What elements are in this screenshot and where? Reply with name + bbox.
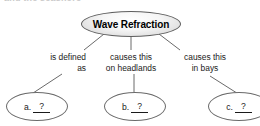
- branch-caption-c: causes this in bays: [173, 52, 237, 73]
- answer-blank-c[interactable]: ?: [235, 101, 252, 113]
- branch-caption-a-line1: is defined: [26, 52, 86, 63]
- answer-node-a[interactable]: a. ?: [6, 92, 68, 121]
- connector-root-to-branch-a: [84, 34, 104, 50]
- answer-node-b[interactable]: b. ?: [104, 92, 166, 121]
- answer-letter-b: b.: [122, 102, 129, 112]
- branch-caption-b: causes this on headlands: [97, 52, 165, 73]
- branch-caption-a: is defined as: [26, 52, 86, 73]
- answer-letter-a: a.: [24, 102, 31, 112]
- branch-caption-c-line1: causes this: [173, 52, 237, 63]
- branch-caption-c-line2: in bays: [173, 63, 237, 74]
- root-node-wave-refraction[interactable]: Wave Refraction: [81, 11, 181, 37]
- answer-letter-c: c.: [226, 102, 233, 112]
- answer-blank-a[interactable]: ?: [33, 101, 50, 113]
- connector-root-to-branch-c: [159, 34, 180, 50]
- answer-blank-b[interactable]: ?: [131, 101, 148, 113]
- branch-caption-b-line2: on headlands: [97, 63, 165, 74]
- branch-caption-b-line1: causes this: [97, 52, 165, 63]
- root-node-label: Wave Refraction: [93, 19, 169, 30]
- concept-map-diagram: and the seashore Wave Refraction is defi…: [0, 0, 260, 126]
- branch-caption-a-line2: as: [26, 63, 86, 74]
